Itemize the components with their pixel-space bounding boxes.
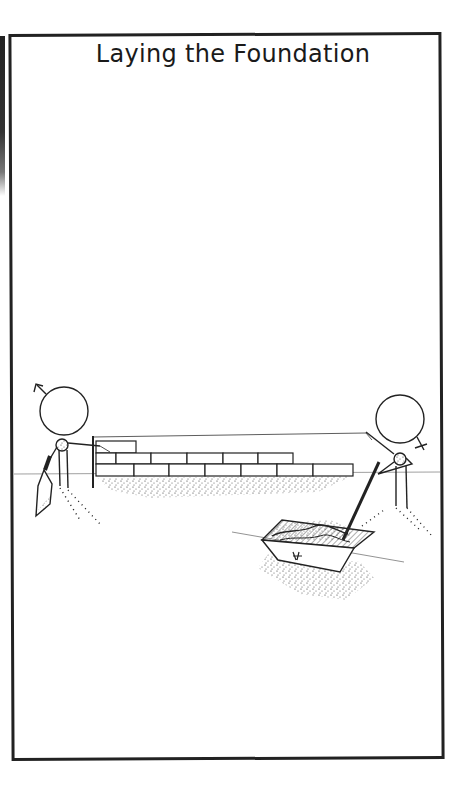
right-stick-figure — [362, 395, 432, 536]
male-symbol-arrowhead — [34, 384, 43, 392]
head — [40, 387, 88, 435]
brick — [151, 453, 187, 464]
raised-arm — [366, 432, 394, 454]
right-leg — [406, 466, 407, 508]
male-symbol-arrow — [37, 385, 46, 394]
shadow — [60, 488, 80, 520]
trowel-handle — [45, 456, 50, 470]
brick — [241, 464, 277, 476]
brick — [96, 464, 134, 476]
female-symbol-stem — [417, 437, 424, 450]
illustration — [0, 0, 466, 804]
trowel-blade — [36, 470, 52, 516]
brick — [277, 464, 313, 476]
foundation-gravel — [98, 476, 352, 498]
head — [376, 395, 424, 443]
brick — [187, 453, 223, 464]
brick — [258, 453, 293, 464]
string-line — [93, 433, 372, 440]
brick — [313, 464, 353, 476]
brick — [96, 453, 116, 464]
brick — [205, 464, 241, 476]
shoulders — [56, 439, 68, 451]
brick — [116, 453, 151, 464]
shoulders — [394, 453, 406, 465]
right-arm — [68, 443, 100, 446]
brick — [169, 464, 205, 476]
mortar-tray — [258, 520, 374, 600]
brick — [223, 453, 258, 464]
left-leg — [59, 450, 60, 486]
brick — [134, 464, 169, 476]
right-leg — [67, 450, 68, 488]
